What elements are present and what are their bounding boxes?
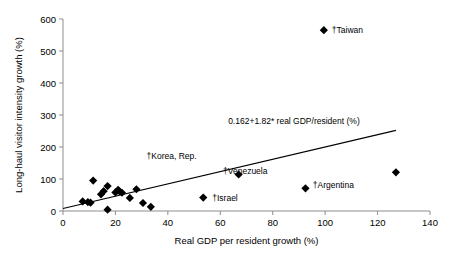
y-axis-tick-label: 100 [40, 174, 56, 185]
data-point-marker [89, 177, 97, 185]
x-axis-tick-label: 60 [215, 217, 226, 228]
x-axis-tick-label: 40 [163, 217, 174, 228]
y-axis-tick-label: 300 [40, 110, 56, 121]
y-axis-tick-label: 500 [40, 46, 56, 57]
data-point-label: †Israel [212, 193, 238, 203]
data-point-label: †Venezuela [223, 166, 268, 176]
data-point-label: †Taiwan [332, 25, 363, 35]
data-point-marker [103, 206, 111, 214]
x-axis-tick-label: 80 [267, 217, 278, 228]
y-axis-title: Long-haul visitor intensity growth (%) [13, 37, 24, 193]
data-point-marker [126, 194, 134, 202]
data-point-marker [301, 184, 309, 192]
chart-canvas: 0100200300400500600020406080100120140Rea… [0, 0, 451, 266]
x-axis-tick-label: 20 [110, 217, 121, 228]
data-point-label: †Argentina [313, 180, 354, 190]
scatter-chart: 0100200300400500600020406080100120140Rea… [0, 0, 451, 266]
data-point-marker [392, 168, 400, 176]
x-axis-tick-label: 0 [60, 217, 65, 228]
y-axis-tick-label: 600 [40, 14, 56, 25]
x-axis-tick-label: 120 [370, 217, 386, 228]
x-axis-tick-label: 100 [317, 217, 333, 228]
data-point-marker [320, 26, 328, 34]
data-point-marker [139, 199, 147, 207]
y-axis-tick-label: 200 [40, 142, 56, 153]
trendline-equation-label: 0.162+1.82* real GDP/resident (%) [228, 116, 360, 126]
data-point-label: †Korea, Rep. [147, 151, 197, 161]
data-point-marker [147, 203, 155, 211]
x-axis-title: Real GDP per resident growth (%) [175, 235, 319, 246]
x-axis-tick-label: 140 [422, 217, 438, 228]
data-point-marker [199, 193, 207, 201]
y-axis-tick-label: 400 [40, 78, 56, 89]
y-axis-tick-label: 0 [51, 206, 56, 217]
